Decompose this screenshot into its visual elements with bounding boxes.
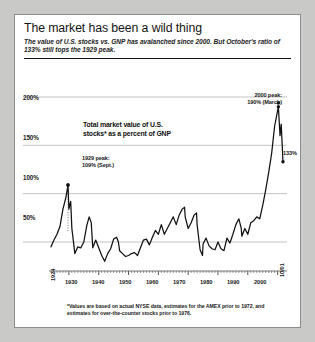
xtick-label-1940: 1940 [92,279,104,285]
xtick-label-1990: 1990 [227,279,239,285]
annotation-1929-line1: 1929 peak: [82,155,114,162]
figure-header: The market has been a wild thing The val… [15,15,300,54]
chart-figure: The market has been a wild thing The val… [14,14,301,328]
xtick-label-1960: 1960 [146,279,158,285]
annotation-1929-line2: 109% (Sept.) [82,162,114,169]
ytick-label-50: 50% [23,214,35,221]
annotation-1929-peak: 1929 peak: 109% (Sept.) [78,155,114,169]
xtick-label-1930: 1930 [65,279,77,285]
ytick-label-100: 100% [23,174,39,181]
header-divider [24,58,291,59]
annotation-current-value: 133% [283,150,297,157]
xtick-label-1980: 1980 [200,279,212,285]
ytick-label-150: 150% [23,134,39,141]
figure-footnote: *Values are based on actual NYSE data, e… [67,303,289,318]
xtick-label-2000: 2000 [254,279,266,285]
chart-series-title: Total market value of U.S. stocks* as a … [81,121,173,138]
xtick-label-1001: 10/01 [279,263,285,277]
xtick-label-1970: 1970 [173,279,185,285]
xtick-label-1950: 1950 [119,279,131,285]
annotation-2000-line1: 2000 peak: [208,92,282,99]
annotation-2000-peak: 2000 peak: 190% (March) [208,92,282,106]
chart-series-title-line2: stocks* as a percent of GNP [83,130,171,139]
xtick-label-1924: 1924 [50,269,56,281]
annotation-2000-line2: 190% (March) [208,99,282,106]
ytick-label-200: 200% [23,94,39,101]
chart-plot-area: 200% 150% 100% 50% Total market value of… [15,93,300,289]
figure-subtitle: The value of U.S. stocks vs. GNP has ava… [24,38,282,54]
chart-series-title-line1: Total market value of U.S. [83,121,171,130]
figure-title: The market has been a wild thing [24,22,291,35]
